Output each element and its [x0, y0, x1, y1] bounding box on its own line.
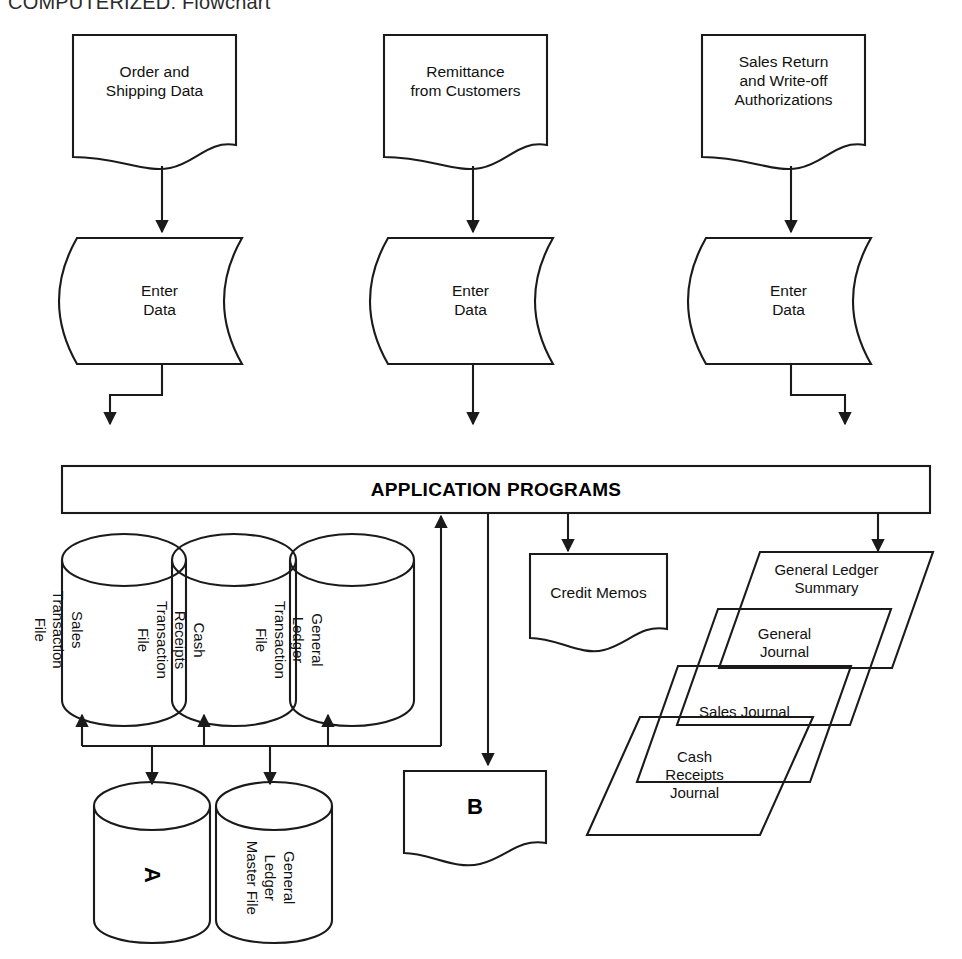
- connector-enter1-to-apps: [110, 364, 162, 424]
- doc-order-shipping: [73, 35, 236, 169]
- shape-enter-data-1: [59, 238, 242, 364]
- cyl-label-gl-transaction-file: General Ledger Transaction File: [252, 560, 326, 720]
- cyl-label-gl-master-file: General Ledger Master File: [242, 803, 298, 953]
- cyl-label-sales-transaction-file: Sales Transaction File: [30, 555, 86, 705]
- flowchart-canvas: COMPUTERIZED: Flowchart Order and Shippi…: [0, 0, 962, 959]
- shape-enter-data-3: [688, 238, 871, 364]
- cyl-master-a-top: [94, 782, 210, 830]
- doc-label-connector-b: B: [404, 794, 546, 820]
- doc-remittance: [384, 35, 547, 169]
- doc-sales-return: [702, 35, 865, 169]
- cyl-label-master-file-a: A: [139, 854, 165, 896]
- shape-enter-data-2: [370, 238, 553, 364]
- doc-credit-memos: [530, 554, 667, 651]
- application-programs-label: APPLICATION PROGRAMS: [62, 479, 930, 501]
- connector-enter3-to-apps: [791, 364, 845, 424]
- page-title: COMPUTERIZED: Flowchart: [8, 0, 270, 14]
- parallelogram-cash-receipts-journal: [587, 717, 813, 835]
- cyl-label-cash-receipts-transaction-file: Cash Receipts Transaction File: [134, 560, 208, 720]
